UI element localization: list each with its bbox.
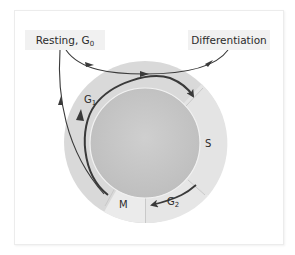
phase-s-name: S — [205, 138, 211, 149]
resting-label-text: Resting, G — [36, 34, 90, 46]
phase-g2-name: G — [167, 196, 175, 207]
differentiation-label-text: Differentiation — [191, 34, 266, 46]
phase-m-name: M — [119, 199, 128, 210]
phase-label-m: M — [119, 199, 128, 210]
resting-label-sub: 0 — [90, 40, 94, 48]
phase-g1-sub: 1 — [92, 99, 96, 107]
phase-g1-name: G — [84, 94, 92, 105]
differentiation-label: Differentiation — [188, 30, 270, 50]
phase-label-s: S — [205, 138, 211, 149]
phase-label-g2: G2 — [167, 196, 179, 209]
phase-g2-sub: 2 — [175, 201, 179, 209]
inner-disc — [90, 88, 200, 198]
phase-label-g1: G1 — [84, 94, 96, 107]
resting-g0-label: Resting, G0 — [25, 30, 105, 50]
resting-arrowhead — [85, 62, 94, 67]
